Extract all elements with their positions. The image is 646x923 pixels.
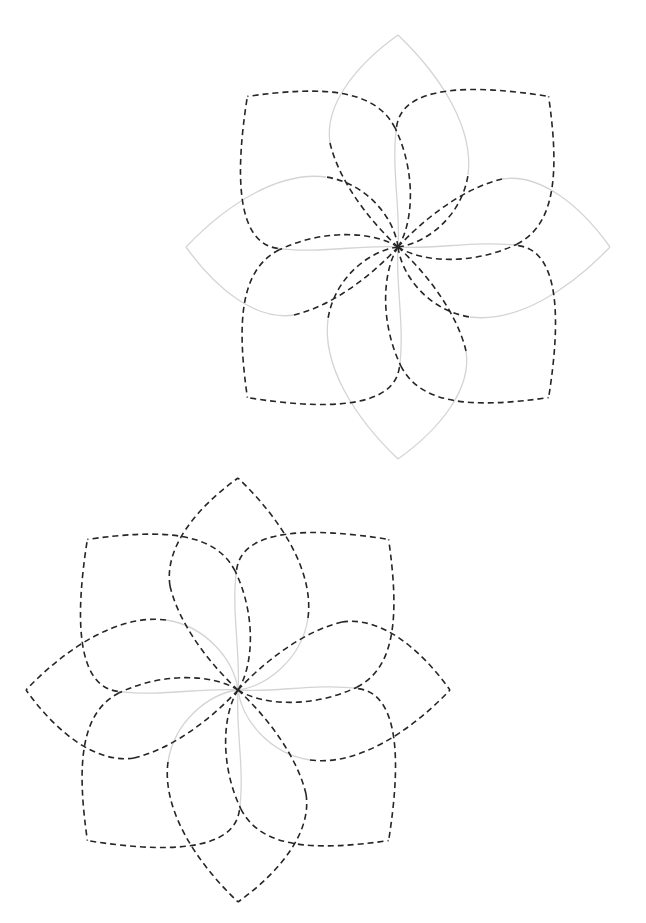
petal-square-135 (398, 186, 518, 306)
petal-edge-sideA_outer (187, 248, 337, 398)
petal-edge-sideB_inner (337, 127, 457, 247)
petal-pointed-0 (329, 35, 468, 175)
petal-edge-sideB_inner (398, 247, 466, 351)
petal-square-315 (278, 188, 398, 308)
petal-edge-sideB_inner (294, 247, 398, 315)
petal-pointed-180 (167, 690, 306, 902)
petal-edge-sideB_outer (182, 96, 339, 253)
petal-edge-sideB_outer (392, 31, 549, 188)
petal-edge-sideA_outer (87, 479, 237, 629)
petal-edge-sideA_outer (27, 691, 177, 841)
petal-edge-sideB_inner (339, 247, 459, 367)
petal-edge-sideB_inner (170, 586, 238, 690)
petal-pointed-90 (470, 178, 610, 317)
petal-edge-sideB_inner (238, 622, 342, 690)
petal-pointed-270 (26, 619, 238, 758)
petal-pointed-180 (327, 319, 466, 459)
petal-edge-sideB_inner (134, 690, 238, 758)
petal-pointed-270 (186, 176, 326, 315)
petal-edge-sideB_outer (502, 178, 610, 247)
petal-edge-sideB_outer (186, 247, 294, 316)
petal-edge-sideB_inner (330, 143, 398, 247)
petal-edge-sideA_outer (399, 308, 549, 458)
petal-square-225 (339, 247, 459, 367)
petal-edge-sideA_outer (459, 96, 609, 246)
petal-edge-sideA_outer (299, 539, 449, 689)
petal-edge-sideB_outer (247, 306, 404, 463)
petal-edge-sideB_outer (26, 690, 134, 759)
petal-edge-sideB_inner (398, 186, 518, 306)
drawing-canvas (0, 0, 646, 923)
petal-square-315 (182, 36, 459, 313)
petal-square-135 (178, 624, 455, 901)
petal-square-45 (172, 474, 449, 751)
petal-edge-sideB_outer (329, 35, 398, 143)
petal-square-225 (27, 630, 304, 907)
petal-square-45 (332, 31, 609, 308)
petal-pointed-90 (238, 621, 450, 760)
petal-edge-sideB_inner (398, 179, 502, 247)
petal-edge-sideB_outer (232, 474, 389, 631)
petal-edge-sideB_outer (342, 621, 450, 690)
petal-square-135 (338, 181, 615, 458)
flower-bottom (22, 474, 455, 907)
flower-top (182, 31, 615, 464)
petal-edge-sideB_outer (297, 684, 454, 841)
petal-edge-sideA_outer (239, 751, 389, 901)
petal-edge-sideB_outer (398, 351, 467, 459)
petal-edge-sideB_outer (22, 539, 179, 696)
petal-pointed-0 (169, 478, 308, 690)
petal-square-45 (337, 127, 457, 247)
petal-edge-sideB_outer (87, 749, 244, 906)
petal-edge-sideB_inner (238, 690, 306, 794)
petal-edge-sideB_outer (457, 241, 614, 398)
petal-edge-sideB_outer (238, 794, 307, 902)
petal-square-225 (187, 187, 464, 464)
petal-edge-sideB_outer (169, 478, 238, 586)
petal-edge-sideA_outer (247, 36, 397, 186)
petal-square-315 (22, 479, 299, 756)
petal-edge-sideB_inner (278, 188, 398, 308)
